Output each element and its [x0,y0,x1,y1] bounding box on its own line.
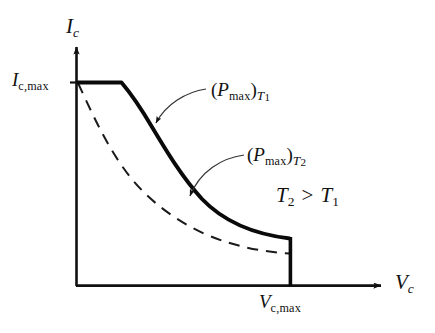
pmax-t2-sub-index: 2 [301,156,307,168]
inequality-right-symbol: T [320,183,332,207]
y-axis-label: Ic [66,16,79,37]
figure-canvas: Ic Ic,max (Pmax)T1 (Pmax)T2 T2>T1 Vc Vc,… [0,0,435,333]
x-tick-label-vcmax: Vc,max [259,292,301,311]
leader-pmax-t2 [190,155,244,196]
inequality-left-symbol: T [276,183,288,207]
leader-pmax-t1 [156,89,206,123]
annotation-pmax-t2: (Pmax)T2 [247,145,306,164]
pmax-t1-close-paren: ) [250,79,256,100]
inequality-right-subscript: 1 [332,194,339,209]
plot-svg [0,0,435,333]
y-tick-label-icmax: Ic,max [12,70,49,89]
y-tick-label-subscript: c,max [18,79,48,93]
y-axis-label-subscript: c [73,25,79,40]
pmax-t1-sub-index: 1 [265,91,271,103]
x-tick-label-subscript: c,max [271,301,301,315]
inequality-left-subscript: 2 [288,194,295,209]
pmax-t1-sub-temp: T [257,88,264,103]
pmax-t2-close-paren: ) [286,144,292,165]
inequality-operator: > [295,183,321,207]
curve-pmax-t2-dashed [78,83,290,254]
pmax-t2-sub-temp: T [293,153,300,168]
x-tick-label-symbol: V [259,291,271,312]
x-axis-label-symbol: V [395,270,408,294]
pmax-t1-symbol: P [217,79,229,100]
annotation-temperature-inequality: T2>T1 [276,185,339,206]
annotation-pmax-t1: (Pmax)T1 [211,80,270,99]
pmax-t2-symbol: P [253,144,265,165]
x-axis-label-subscript: c [408,281,414,296]
pmax-t2-sub-max: max [265,154,287,168]
y-axis-label-symbol: I [66,14,73,38]
x-axis-label: Vc [395,272,414,293]
pmax-t1-sub-max: max [229,89,251,103]
